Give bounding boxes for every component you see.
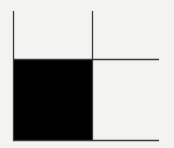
diagram-canvas	[0, 0, 174, 148]
filled-black-block	[13, 59, 92, 140]
line-diagram	[0, 0, 174, 148]
